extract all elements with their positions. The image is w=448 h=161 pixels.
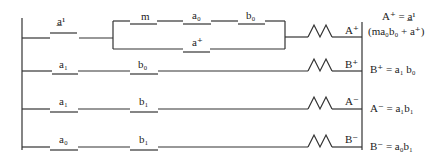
rung-4 [22,135,362,150]
contact-label: a₀ [192,10,201,21]
contact-label: a̲¹ [57,16,65,27]
equation-a-plus: A⁺ = a̲¹ [382,10,416,22]
equation-b-plus: B⁺ = a₁ b₀ [370,63,416,75]
coil-label: A⁻ [345,96,359,107]
coil-label: A⁺ [345,25,359,36]
contact-label: b₀ [138,59,147,70]
rung-2 [22,59,362,74]
equation-b-minus: B⁻ = a₀b₁ [370,140,413,152]
rung-3 [22,97,362,112]
coil-label: B⁺ [345,59,358,70]
equation-a-plus-cont: (ma₀b₀ + a⁺) [368,25,424,37]
contact-label: b₁ [139,96,148,107]
equation-a-minus: A⁻ = a₁b₁ [370,102,414,114]
contact-label: b₀ [246,10,255,21]
coil-label: B⁻ [345,134,358,145]
contact-label: a⁺ [192,37,203,48]
contact-label: b₁ [139,134,148,145]
contact-label: a₁ [59,59,68,70]
contact-label: m [141,11,150,22]
contact-label: a₁ [59,96,68,107]
contact-label: a₀ [59,134,68,145]
